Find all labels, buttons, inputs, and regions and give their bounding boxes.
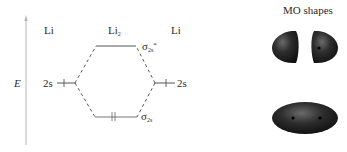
antibonding-star: *: [153, 41, 157, 49]
energy-axis: [24, 15, 27, 145]
right-ao-text: 2s: [177, 77, 187, 89]
molecule-subscript: 2: [118, 31, 121, 37]
right-ao-level: [155, 79, 175, 87]
right-atom-label: Li: [171, 25, 181, 35]
left-atom-label: Li: [44, 25, 54, 35]
bonding-mo-level: [95, 112, 137, 121]
left-ao-label: 2s: [43, 78, 53, 88]
bonding-mo-label: σ2s: [141, 111, 152, 125]
nucleus-dot: [291, 116, 294, 119]
right-lobe: [311, 31, 338, 63]
right-ao-label: 2s: [177, 78, 187, 88]
mo-energy-diagram: [0, 0, 347, 152]
antibonding-mo-shape: [272, 31, 338, 63]
bonding-mo-shape: [272, 102, 338, 134]
nucleus-dot: [318, 116, 321, 119]
left-ao-text: 2s: [43, 77, 53, 89]
molecule-label: Li2: [108, 25, 121, 39]
axis-arrow-icon: [24, 15, 27, 21]
correlation-lines: [75, 46, 155, 117]
left-lobe: [272, 31, 299, 63]
nucleus-dot: [317, 46, 320, 49]
left-ao-level: [57, 79, 75, 87]
mo-subscript: 2s: [147, 117, 152, 123]
antibonding-mo-label: σ2s*: [142, 40, 157, 55]
molecule-symbol: Li: [108, 24, 118, 36]
mo-shapes-title: MO shapes: [283, 5, 333, 15]
energy-axis-label: E: [14, 78, 21, 88]
